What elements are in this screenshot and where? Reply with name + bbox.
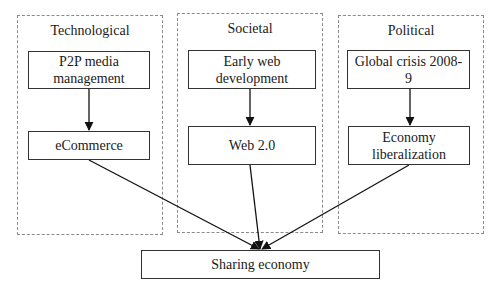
node-sharing-label: Sharing economy bbox=[211, 256, 309, 273]
group-title-technological: Technological bbox=[18, 23, 162, 39]
group-societal: Societal bbox=[177, 13, 323, 233]
node-economy-liberalization: Economy liberalization bbox=[348, 126, 470, 165]
node-crisis-label: Global crisis 2008-9 bbox=[352, 53, 465, 87]
group-title-societal: Societal bbox=[178, 21, 322, 37]
group-title-political: Political bbox=[339, 23, 483, 39]
group-technological: Technological bbox=[17, 15, 163, 235]
node-web-2-0: Web 2.0 bbox=[188, 126, 316, 165]
node-sharing-economy: Sharing economy bbox=[141, 250, 380, 279]
node-liberal-line2: liberalization bbox=[372, 146, 446, 163]
node-web2-label: Web 2.0 bbox=[229, 137, 275, 154]
node-p2p-line1: P2P media bbox=[59, 53, 119, 70]
node-ecommerce-label: eCommerce bbox=[55, 137, 123, 154]
node-liberal-line1: Economy bbox=[382, 129, 436, 146]
node-p2p-line2: management bbox=[53, 70, 125, 87]
group-political: Political bbox=[338, 15, 484, 234]
node-early-web-line2: development bbox=[216, 70, 288, 87]
node-early-web-development: Early web development bbox=[188, 50, 316, 89]
node-p2p-media-management: P2P media management bbox=[28, 51, 150, 89]
node-early-web-line1: Early web bbox=[223, 53, 280, 70]
node-ecommerce: eCommerce bbox=[28, 131, 150, 160]
node-global-crisis: Global crisis 2008-9 bbox=[347, 50, 470, 89]
